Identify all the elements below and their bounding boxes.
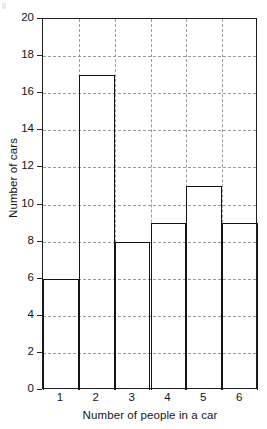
y-tick-label: 18 (8, 49, 34, 61)
y-tick-label: 16 (8, 86, 34, 98)
gridline-horizontal (43, 56, 256, 57)
y-tick-label: 2 (8, 346, 34, 358)
bar-5 (186, 186, 222, 390)
x-tick-label: 3 (114, 392, 150, 404)
bar-1 (43, 279, 79, 390)
x-tick-label: 4 (149, 392, 185, 404)
y-tick-label: 4 (8, 309, 34, 321)
y-tick-label: 12 (8, 160, 34, 172)
scan-artifact (2, 3, 6, 9)
plot-area (42, 18, 257, 389)
bar-6 (222, 223, 258, 390)
bar-2 (79, 75, 115, 390)
bar-4 (151, 223, 187, 390)
y-tick-label: 14 (8, 123, 34, 135)
x-tick-label: 2 (78, 392, 114, 404)
y-tick-label: 6 (8, 272, 34, 284)
bar-chart: Number of cars Number of people in a car… (0, 0, 267, 429)
x-tick-label: 6 (221, 392, 257, 404)
gridline-horizontal (43, 93, 256, 94)
gridline-horizontal (43, 130, 256, 131)
x-axis-title: Number of people in a car (42, 409, 258, 421)
gridline-horizontal (43, 167, 256, 168)
x-tick-label: 5 (185, 392, 221, 404)
x-tick-label: 1 (42, 392, 78, 404)
y-tick-label: 20 (8, 12, 34, 24)
bar-3 (115, 242, 151, 390)
y-tick-mark (37, 389, 42, 390)
y-tick-label: 10 (8, 198, 34, 210)
y-tick-label: 8 (8, 235, 34, 247)
gridline-horizontal (43, 205, 256, 206)
y-tick-label: 0 (8, 383, 34, 395)
